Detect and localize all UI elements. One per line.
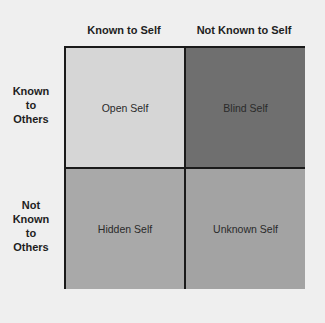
row-header-line: Known (0, 212, 62, 226)
quadrant-label: Unknown Self (213, 223, 278, 235)
row-header-line: Others (0, 240, 62, 254)
row-header-line: Not (0, 198, 62, 212)
quadrant-open-self: Open Self (66, 48, 184, 167)
row-header-line: to (0, 98, 62, 112)
row-header-line: Known (0, 84, 62, 98)
quadrant-hidden-self: Hidden Self (66, 169, 184, 289)
row-header-line: to (0, 226, 62, 240)
quadrant-label: Hidden Self (98, 223, 152, 235)
row-header-line: Others (0, 112, 62, 126)
column-header-not-known-to-self: Not Known to Self (184, 24, 304, 36)
row-header-not-known-to-others: Not Known to Others (0, 198, 62, 254)
quadrant-label: Open Self (102, 102, 149, 114)
quadrant-unknown-self: Unknown Self (186, 169, 305, 289)
row-header-known-to-others: Known to Others (0, 84, 62, 126)
quadrant-blind-self: Blind Self (186, 48, 305, 167)
johari-window-grid: Open Self Blind Self Hidden Self Unknown… (64, 46, 305, 289)
quadrant-label: Blind Self (223, 102, 267, 114)
column-header-known-to-self: Known to Self (64, 24, 184, 36)
